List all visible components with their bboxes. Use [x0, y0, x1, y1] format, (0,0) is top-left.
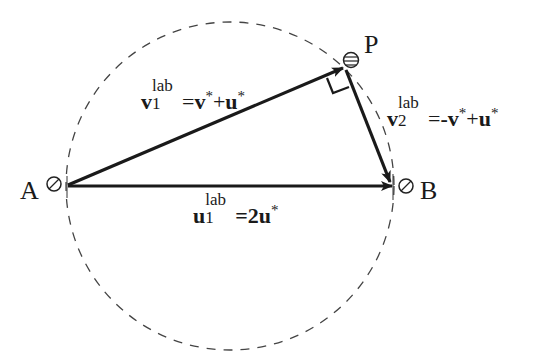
particle-a-icon: [47, 177, 61, 191]
v1-sub: 1: [152, 95, 161, 112]
v1-rhs-v: v: [194, 89, 205, 114]
point-label-p: P: [364, 32, 378, 58]
vector-label-u1: ulab1=2u*: [193, 201, 279, 227]
v2-equals: =: [428, 106, 440, 131]
v2-rhs-star2: *: [491, 105, 499, 121]
v1-rhs-star2: *: [238, 88, 246, 104]
v2-rhs-star1: *: [459, 105, 467, 121]
v2-rhs-u: u: [479, 106, 491, 131]
v1-equals: =: [182, 89, 194, 114]
u1-sub: 1: [205, 209, 214, 226]
u1-base: u: [193, 203, 205, 228]
u1-rhs-2u: 2u: [248, 203, 271, 228]
u1-sup: lab: [205, 191, 226, 208]
v2-sup: lab: [398, 94, 419, 111]
point-label-b: B: [420, 178, 437, 204]
v1-rhs-star1: *: [205, 88, 213, 104]
v2-sub: 2: [398, 112, 407, 129]
v2-base: v: [387, 106, 398, 131]
v1-rhs-u: u: [225, 89, 237, 114]
u1-rhs-star: *: [271, 202, 279, 218]
particle-p-icon: [344, 53, 359, 68]
v2-rhs-plus: +: [466, 106, 478, 131]
diagram-canvas: [0, 0, 533, 364]
v1-rhs-plus: +: [213, 89, 225, 114]
v1-base: v: [141, 89, 152, 114]
vector-v1-lab: [68, 68, 343, 185]
point-label-a: A: [20, 178, 39, 204]
v1-sup: lab: [152, 77, 173, 94]
v2-rhs-neg-v: -v: [440, 106, 458, 131]
vector-label-v1: vlab1=v*+u*: [141, 87, 245, 113]
u1-equals: =: [235, 203, 248, 228]
vector-label-v2: vlab2=-v*+u*: [387, 104, 498, 130]
right-angle-marker: [327, 78, 349, 93]
particle-b-icon: [399, 179, 413, 193]
vector-v2-lab: [346, 70, 390, 182]
